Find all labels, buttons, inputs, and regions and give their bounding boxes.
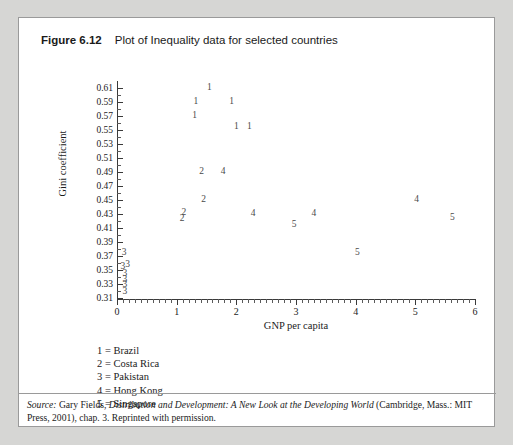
legend-row: 1 = Brazil: [97, 344, 163, 357]
data-point-costa-rica: 2: [176, 213, 188, 224]
x-tick-major: [415, 299, 416, 305]
x-tick-minor: [427, 299, 428, 303]
x-tick-label: 4: [346, 306, 366, 317]
x-tick-minor: [141, 299, 142, 303]
y-tick-label-text: 0.53: [96, 139, 113, 149]
source-note: Source: Gary Fields, Distribution and De…: [27, 399, 489, 424]
y-tick-label-text: 0.41: [96, 223, 113, 233]
y-tick-major: [117, 228, 123, 229]
x-tick-minor: [469, 299, 470, 303]
x-tick-minor: [123, 299, 124, 303]
y-tick-label: 0.41: [81, 223, 113, 233]
data-point-brazil: 1: [203, 82, 215, 93]
y-tick-label: 0.51: [81, 153, 113, 163]
x-tick-minor: [439, 299, 440, 303]
x-tick-minor: [135, 299, 136, 303]
x-tick-major: [296, 299, 297, 305]
y-tick-major: [117, 102, 123, 103]
data-point-singapore: 5: [288, 219, 300, 230]
x-tick-minor: [326, 299, 327, 303]
x-tick-minor: [409, 299, 410, 303]
figure-panel: Figure 6.12Plot of Inequality data for s…: [18, 17, 495, 427]
x-tick-minor: [457, 299, 458, 303]
y-tick-label-text: 0.61: [96, 83, 113, 93]
y-tick-label: 0.37: [81, 251, 113, 261]
x-tick-minor: [302, 299, 303, 303]
x-tick-label: 5: [405, 306, 425, 317]
data-point-brazil: 1: [230, 121, 242, 132]
y-tick-label-text: 0.39: [96, 237, 113, 247]
x-tick-minor: [230, 299, 231, 303]
y-tick-major: [117, 144, 123, 145]
x-tick-minor: [338, 299, 339, 303]
x-tick-minor: [451, 299, 452, 303]
x-tick-label: 2: [226, 306, 246, 317]
y-tick-label-text: 0.51: [96, 153, 113, 163]
y-tick-label-text: 0.59: [96, 97, 113, 107]
y-tick-minor: [117, 179, 121, 180]
x-tick-major: [117, 299, 118, 305]
legend-row: 4 = Hong Kong: [97, 384, 163, 397]
data-point-pakistan: 3: [119, 286, 131, 297]
data-point-brazil: 1: [243, 121, 255, 132]
x-tick-minor: [218, 299, 219, 303]
x-tick-minor: [380, 299, 381, 303]
x-tick-minor: [207, 299, 208, 303]
x-tick-minor: [284, 299, 285, 303]
x-tick-major: [177, 299, 178, 305]
x-tick-minor: [278, 299, 279, 303]
x-tick-minor: [445, 299, 446, 303]
y-tick-label: 0.61: [81, 83, 113, 93]
y-tick-label-text: 0.55: [96, 125, 113, 135]
y-tick-label-text: 0.31: [96, 293, 113, 303]
x-tick-major: [236, 299, 237, 305]
x-tick-label: 1: [167, 306, 187, 317]
x-tick-minor: [248, 299, 249, 303]
y-tick-label-text: 0.49: [96, 167, 113, 177]
x-tick-minor: [224, 299, 225, 303]
source-divider: [19, 393, 496, 394]
y-tick-label: 0.55: [81, 125, 113, 135]
y-tick-major: [117, 214, 123, 215]
y-tick-label: 0.43: [81, 209, 113, 219]
x-tick-minor: [147, 299, 148, 303]
y-tick-major: [117, 172, 123, 173]
x-tick-minor: [260, 299, 261, 303]
x-tick-minor: [433, 299, 434, 303]
source-work-title: Distribution and Development: A New Look…: [109, 399, 374, 410]
legend-row: 3 = Pakistan: [97, 370, 163, 383]
x-tick-minor: [195, 299, 196, 303]
x-tick-minor: [314, 299, 315, 303]
y-tick-label: 0.39: [81, 237, 113, 247]
y-tick-major: [117, 88, 123, 89]
data-point-hong-kong: 4: [247, 208, 259, 219]
x-tick-minor: [189, 299, 190, 303]
y-tick-label-text: 0.35: [96, 265, 113, 275]
y-tick-major: [117, 242, 123, 243]
y-tick-label: 0.47: [81, 181, 113, 191]
x-tick-minor: [272, 299, 273, 303]
x-tick-minor: [386, 299, 387, 303]
source-label: Source:: [27, 399, 56, 410]
data-point-singapore: 5: [446, 212, 458, 223]
x-tick-minor: [350, 299, 351, 303]
y-tick-label-text: 0.57: [96, 111, 113, 121]
y-tick-label-text: 0.45: [96, 195, 113, 205]
x-tick-minor: [308, 299, 309, 303]
data-point-hong-kong: 4: [411, 194, 423, 205]
y-tick-label-text: 0.37: [96, 251, 113, 261]
data-point-brazil: 1: [226, 96, 238, 107]
y-tick-minor: [117, 193, 121, 194]
x-tick-major: [356, 299, 357, 305]
x-tick-minor: [403, 299, 404, 303]
y-axis-title: Gini coefficient: [57, 99, 68, 229]
data-point-brazil: 1: [190, 96, 202, 107]
x-tick-minor: [165, 299, 166, 303]
x-tick-minor: [320, 299, 321, 303]
y-tick-major: [117, 116, 123, 117]
y-tick-major: [117, 130, 123, 131]
y-tick-label: 0.57: [81, 111, 113, 121]
x-tick-minor: [171, 299, 172, 303]
source-author: Gary Fields,: [59, 399, 106, 410]
y-tick-minor: [117, 207, 121, 208]
